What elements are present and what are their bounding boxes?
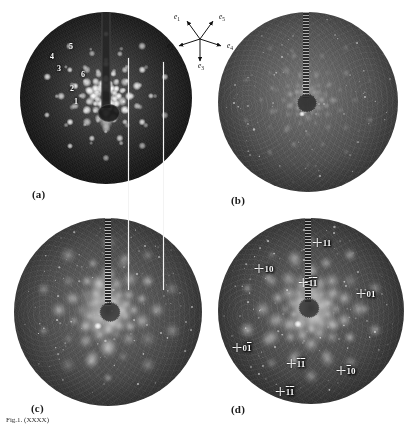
diffuse-reflection <box>367 78 372 83</box>
diffraction-spot <box>137 104 143 110</box>
diffraction-spot <box>103 57 109 63</box>
diffraction-spot <box>114 92 122 100</box>
speckle <box>49 366 50 367</box>
diffuse-reflection <box>100 292 117 309</box>
diffraction-spot <box>103 83 110 90</box>
diffraction-spot <box>83 105 92 114</box>
diffuse-reflection <box>93 287 114 308</box>
speckle <box>253 67 254 68</box>
diffuse-reflection <box>305 106 311 112</box>
diffuse-reflection <box>127 303 141 317</box>
diffraction-spot <box>124 109 129 114</box>
diffuse-reflection <box>102 313 121 332</box>
diffuse-reflection <box>285 90 293 98</box>
speckle <box>57 353 60 356</box>
diffraction-spot <box>117 96 127 106</box>
speckle <box>316 384 318 386</box>
speckle <box>326 231 327 232</box>
speckle <box>123 265 126 268</box>
speckle <box>133 339 136 342</box>
diffuse-reflection <box>93 310 111 328</box>
diffraction-spot <box>108 100 115 107</box>
speckle <box>136 382 139 385</box>
diffraction-spot <box>124 78 129 83</box>
speckle <box>247 300 250 303</box>
diffraction-spot <box>161 111 169 119</box>
speckle <box>239 315 241 317</box>
diffuse-reflection <box>324 123 332 131</box>
speckle <box>355 42 358 45</box>
speckle <box>99 228 101 230</box>
diffraction-spot <box>112 85 119 92</box>
diffuse-reflection <box>118 252 132 266</box>
speckle <box>310 71 312 73</box>
speckle <box>318 175 321 178</box>
diffuse-reflection <box>122 269 141 288</box>
diffuse-reflection <box>296 278 310 292</box>
speckle <box>249 154 252 157</box>
speckle <box>38 363 40 365</box>
speckle <box>384 118 386 120</box>
diffuse-reflection <box>99 234 117 252</box>
diffuse-reflection <box>138 329 157 348</box>
speckle <box>185 282 186 283</box>
diffraction-spot <box>119 87 126 94</box>
diffuse-reflection <box>306 33 310 37</box>
diffuse-reflection <box>100 312 117 329</box>
speckle <box>266 239 268 241</box>
diffuse-reflection <box>303 291 319 307</box>
diffuse-reflection <box>88 309 107 328</box>
speckle <box>91 276 94 279</box>
speckle <box>43 327 45 329</box>
diffraction-spot <box>133 102 140 109</box>
diffuse-reflection <box>36 282 51 297</box>
diffuse-reflection <box>309 109 316 116</box>
diffuse-reflection <box>98 339 118 359</box>
speckle <box>104 339 107 342</box>
diffuse-reflection <box>287 254 304 271</box>
speckle <box>55 286 57 288</box>
diffuse-reflection <box>320 90 329 99</box>
diffuse-reflection <box>342 69 350 77</box>
diffuse-reflection <box>92 292 113 313</box>
speckle <box>301 250 303 252</box>
speckle <box>304 168 306 170</box>
diffuse-reflection <box>293 88 302 97</box>
diffraction-spot <box>112 96 118 102</box>
diffraction-spot <box>102 60 109 67</box>
speckle <box>170 303 171 304</box>
speckle <box>300 19 301 20</box>
diffuse-reflection <box>299 109 308 118</box>
diffraction-spot <box>107 99 115 107</box>
diffraction-spot <box>111 69 116 74</box>
diffuse-reflection <box>244 117 250 123</box>
diffuse-reflection <box>90 275 111 296</box>
diffuse-reflection <box>84 299 105 320</box>
speckle <box>277 330 280 333</box>
diffraction-spot <box>106 104 113 111</box>
diffraction-spot <box>67 143 73 149</box>
speckle <box>304 366 306 368</box>
diffraction-spot <box>83 118 92 127</box>
diffraction-spot <box>104 129 108 133</box>
diffraction-spot <box>114 78 119 83</box>
speckle <box>130 333 133 336</box>
diffuse-reflection <box>325 82 331 88</box>
diffraction-spot <box>120 78 129 87</box>
diffuse-reflection <box>115 256 131 272</box>
diffuse-reflection <box>287 308 300 321</box>
speckle <box>259 156 261 158</box>
diffuse-reflection <box>109 308 129 328</box>
speckle <box>154 381 156 383</box>
speckle <box>333 225 336 228</box>
beamstop-bar-c <box>105 218 111 306</box>
speckle <box>60 237 62 239</box>
central-flare <box>299 112 306 117</box>
diffuse-reflection <box>295 307 315 327</box>
diffuse-reflection <box>113 319 127 333</box>
speckle <box>287 53 289 55</box>
speckle <box>357 329 358 330</box>
speckle <box>78 280 81 283</box>
diffraction-spot <box>113 106 120 113</box>
beamstop-bar-a <box>102 12 111 108</box>
